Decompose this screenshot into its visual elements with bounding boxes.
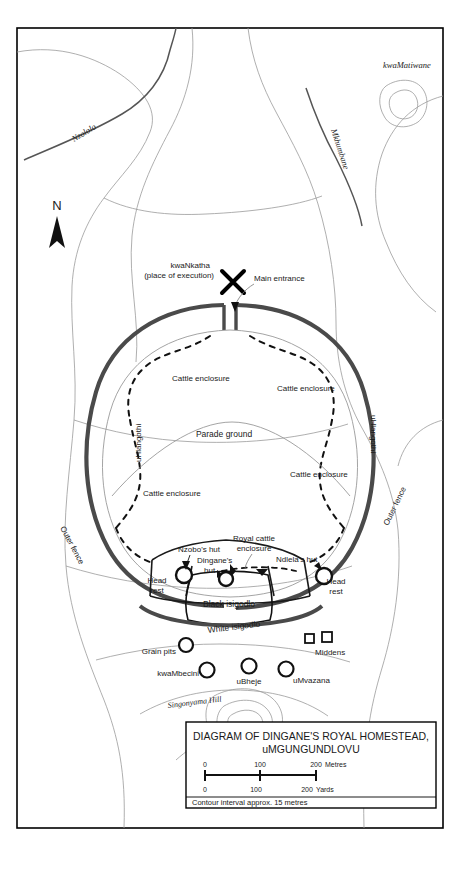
hut-nzobo-marker [176,567,192,583]
label-dingane-hut-line2: hut [204,566,216,575]
label-ubheje: uBheje [237,677,262,686]
label-uhlangothi-left: uHlangothi [134,424,143,462]
title-line-2: uMGUNGUNDLOVU [262,743,359,755]
scale-yards-unit: Yards [316,786,334,793]
map-root: Nzololo Mkhumbane kwaMatiwane Singonyama… [0,0,460,873]
label-head-rest-left-line2: rest [150,586,164,595]
label-kwankatha-line1: kwaNkatha [170,261,210,270]
midden-marker-2 [322,632,332,642]
label-middens: Middens [315,648,345,657]
label-cattle-enclosure-ne: Cattle enclosure [277,384,335,393]
scale-metres-unit: Metres [325,761,347,768]
scale-yards-tick-0: 0 [203,786,207,793]
label-cattle-enclosure-e: Cattle enclosure [290,470,348,479]
label-kwankatha-line2: (place of execution) [144,271,214,280]
label-umvazana: uMvazana [293,676,330,685]
title-block: DIAGRAM OF DINGANE'S ROYAL HOMESTEAD, uM… [186,722,436,808]
scale-metres-tick-0: 0 [203,761,207,768]
label-royal-cattle-line1: Royal cattle [233,534,275,543]
hut-umvazana-marker [279,662,294,677]
label-main-entrance: Main entrance [254,274,305,283]
label-royal-cattle-line2: enclosure [237,544,272,553]
label-nzobo-hut: Nzobo's hut [178,545,221,554]
label-uhlangothi-right: uHlangothi [369,415,378,453]
midden-marker-1 [305,634,314,643]
label-parade-ground: Parade ground [196,429,253,439]
compass-north-label: N [52,198,61,213]
grain-pits-marker [179,638,193,652]
label-cattle-enclosure-nw: Cattle enclosure [172,374,230,383]
contour-note: Contour interval approx. 15 metres [192,798,308,807]
label-head-rest-right-line2: rest [329,587,343,596]
label-black-isigodlo: Black isigodlo [203,599,255,609]
scale-yards-tick-100: 100 [250,786,262,793]
scale-yards-tick-200: 200 [301,786,313,793]
title-line-1: DIAGRAM OF DINGANE'S ROYAL HOMESTEAD, [193,730,429,742]
label-dingane-hut-line1: Dingane's [197,556,232,565]
hut-ubheje-marker [242,659,257,674]
label-head-rest-left-line1: Head [147,576,166,585]
label-head-rest-right-line1: Head [326,577,345,586]
scale-metres-tick-200: 200 [310,761,322,768]
label-cattle-enclosure-sw: Cattle enclosure [143,489,201,498]
label-ndlela-hut: Ndlela's hut [276,555,318,564]
scale-metres-tick-100: 100 [254,761,266,768]
hill-label-kwamatiwane: kwaMatiwane [383,60,431,70]
hut-kwambecini-marker [200,663,215,678]
label-kwambecini: kwaMbecini [157,669,199,678]
label-grain-pits: Grain pits [142,647,176,656]
